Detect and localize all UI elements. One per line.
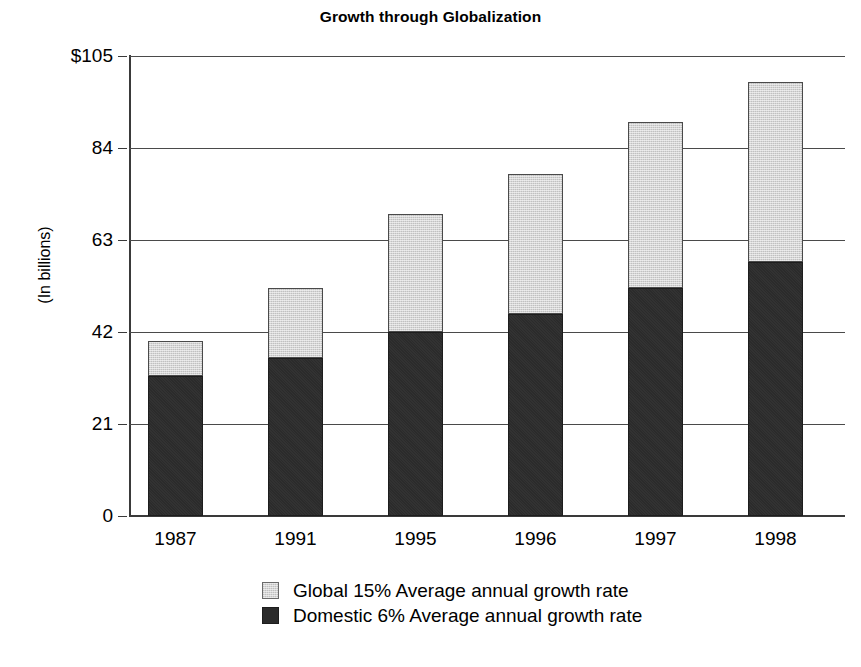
bar-group xyxy=(628,56,683,516)
legend-item: Global 15% Average annual growth rate xyxy=(262,578,642,603)
bar-segment-global xyxy=(268,288,323,358)
legend-label: Domestic 6% Average annual growth rate xyxy=(293,605,642,627)
gridline xyxy=(129,515,845,517)
bar-segment-domestic xyxy=(508,314,563,516)
y-axis-line xyxy=(129,55,131,517)
y-axis-label: (In billions) xyxy=(36,185,54,345)
tick-mark xyxy=(118,56,127,57)
x-tick-label: 1998 xyxy=(748,528,803,550)
bar-segment-global xyxy=(628,122,683,288)
bar-segment-domestic xyxy=(628,288,683,516)
bar-group xyxy=(268,56,323,516)
x-tick-label: 1987 xyxy=(148,528,203,550)
x-tick-label: 1996 xyxy=(508,528,563,550)
bar-segment-global xyxy=(388,214,443,332)
gridline xyxy=(129,332,845,333)
chart-title: Growth through Globalization xyxy=(0,8,861,26)
bar-segment-global xyxy=(508,174,563,314)
tick-mark xyxy=(118,240,127,241)
gridline xyxy=(129,424,845,425)
legend-label: Global 15% Average annual growth rate xyxy=(293,580,629,602)
legend-swatch-global xyxy=(262,582,279,599)
y-tick-label: 21 xyxy=(92,413,113,435)
bar-segment-domestic xyxy=(268,358,323,516)
bar-segment-domestic xyxy=(748,262,803,516)
bar-segment-global xyxy=(748,82,803,262)
tick-mark xyxy=(118,516,127,517)
gridline xyxy=(129,240,845,241)
bar-group xyxy=(148,56,203,516)
y-tick-label: 42 xyxy=(92,321,113,343)
y-tick-label: $105 xyxy=(71,45,113,67)
y-tick-label: 0 xyxy=(102,505,113,527)
y-tick-label: 84 xyxy=(92,137,113,159)
tick-mark xyxy=(118,332,127,333)
bar-segment-domestic xyxy=(388,332,443,516)
bar-group xyxy=(748,56,803,516)
bar-segment-domestic xyxy=(148,376,203,516)
chart-container: Growth through Globalization (In billion… xyxy=(0,0,861,667)
gridline xyxy=(129,56,845,57)
x-tick-label: 1995 xyxy=(388,528,443,550)
gridline xyxy=(129,148,845,149)
legend-item: Domestic 6% Average annual growth rate xyxy=(262,603,642,628)
bar-group xyxy=(508,56,563,516)
bar-group xyxy=(388,56,443,516)
x-tick-label: 1991 xyxy=(268,528,323,550)
tick-mark xyxy=(118,148,127,149)
plot-area: 021426384$105 xyxy=(129,56,845,516)
y-tick-label: 63 xyxy=(92,229,113,251)
chart-legend: Global 15% Average annual growth rateDom… xyxy=(262,578,642,628)
bar-segment-global xyxy=(148,341,203,376)
tick-mark xyxy=(118,424,127,425)
legend-swatch-domestic xyxy=(262,607,279,624)
x-tick-label: 1997 xyxy=(628,528,683,550)
